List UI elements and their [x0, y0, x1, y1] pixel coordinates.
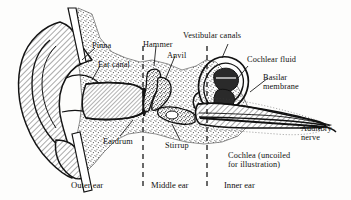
section-label-middle-ear: Middle ear: [151, 180, 188, 190]
label-cochlear-fluid: Cochlear fluid: [247, 55, 296, 64]
label-ear-canal: Ear canal: [98, 60, 130, 69]
label-vestibular-canals: Vestibular canals: [183, 31, 241, 40]
ear-cross-section-drawing: [0, 0, 351, 200]
label-cochlea-note-line2: for illustration): [228, 160, 280, 169]
label-auditory-nerve: Auditory nerve: [301, 124, 349, 143]
label-eardrum: Eardrum: [103, 137, 133, 146]
label-basilar-membrane: Basilar membrane: [263, 73, 325, 92]
label-auditory-nerve-line2: nerve: [301, 133, 320, 142]
label-cochlea-note: Cochlea (uncoiled for illustration): [228, 151, 313, 170]
label-pinna: Pinna: [92, 41, 111, 50]
label-anvil: Anvil: [167, 51, 186, 60]
ear-canal-shape: [82, 83, 144, 120]
label-stirrup: Stirrup: [165, 141, 189, 150]
label-auditory-nerve-line1: Auditory: [301, 124, 332, 133]
section-label-outer-ear: Outer ear: [71, 180, 103, 190]
label-basilar-membrane-line2: membrane: [263, 82, 299, 91]
section-label-inner-ear: Inner ear: [224, 180, 255, 190]
label-hammer: Hammer: [143, 40, 173, 49]
label-cochlea-note-line1: Cochlea (uncoiled: [228, 151, 290, 160]
ear-anatomy-figure: Pinna Ear canal Eardrum Hammer Anvil Sti…: [0, 0, 351, 200]
label-basilar-membrane-line1: Basilar: [263, 73, 287, 82]
